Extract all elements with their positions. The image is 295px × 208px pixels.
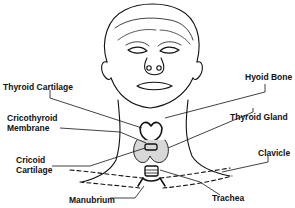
anatomy-illustration bbox=[0, 0, 295, 208]
right-eye bbox=[160, 47, 179, 53]
head-outline bbox=[104, 4, 199, 62]
label-cricoid-cartilage-2: Cartilage bbox=[16, 165, 52, 175]
leader-thyroid-cartilage bbox=[50, 90, 142, 128]
leader-cricothyroid bbox=[60, 128, 146, 143]
neck-anatomy-diagram: Thyroid Cartilage Cricothyroid Membrane … bbox=[0, 0, 295, 208]
left-ear bbox=[102, 62, 111, 80]
label-thyroid-cartilage: Thyroid Cartilage bbox=[3, 82, 73, 92]
leader-clavicle bbox=[222, 156, 268, 172]
label-clavicle: Clavicle bbox=[258, 148, 290, 158]
label-cricoid-cartilage-1: Cricoid bbox=[16, 155, 45, 165]
leader-cricoid bbox=[52, 148, 145, 166]
trachea-rings bbox=[145, 166, 158, 176]
label-trachea: Trachea bbox=[212, 193, 244, 203]
label-thyroid-gland: Thyroid Gland bbox=[230, 112, 288, 122]
neck-right bbox=[186, 100, 230, 176]
manubrium bbox=[138, 178, 165, 186]
left-eye bbox=[128, 47, 147, 53]
label-cricothyroid-membrane-2: Membrane bbox=[7, 123, 50, 133]
thyroid-cartilage bbox=[140, 122, 162, 142]
label-manubrium: Manubrium bbox=[69, 195, 115, 205]
mouth bbox=[137, 82, 172, 90]
right-ear bbox=[193, 62, 202, 80]
label-cricothyroid-membrane-1: Cricothyroid bbox=[7, 113, 58, 123]
neck-left bbox=[82, 100, 120, 182]
label-hyoid-bone: Hyoid Bone bbox=[245, 72, 292, 82]
